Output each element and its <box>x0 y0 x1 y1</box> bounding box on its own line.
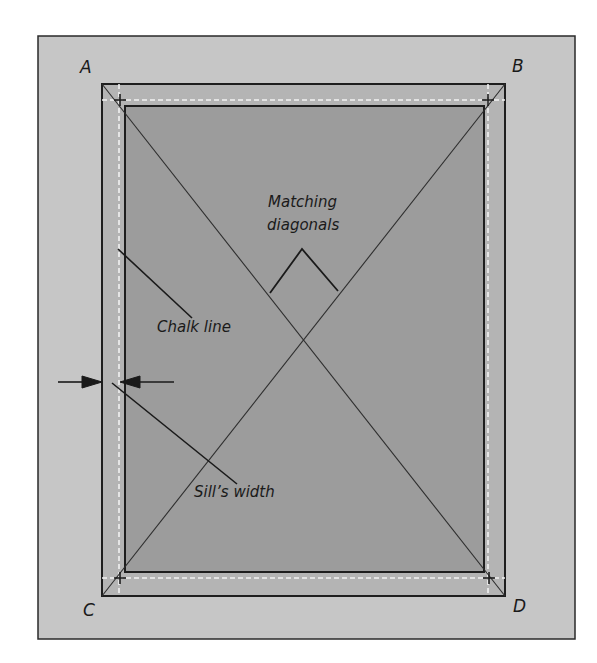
sills-width-label: Sill’s width <box>194 483 275 501</box>
frame-layout-diagram: A B C D Matching diagonals Chalk line Si… <box>0 0 597 663</box>
corner-label-b: B <box>512 56 524 76</box>
matching-diagonals-label-line2: diagonals <box>267 216 339 234</box>
matching-diagonals-label-line1: Matching <box>268 193 337 211</box>
corner-label-c: C <box>83 600 95 620</box>
chalk-line-label: Chalk line <box>157 318 231 336</box>
corner-label-a: A <box>79 57 92 77</box>
corner-label-d: D <box>513 596 526 616</box>
